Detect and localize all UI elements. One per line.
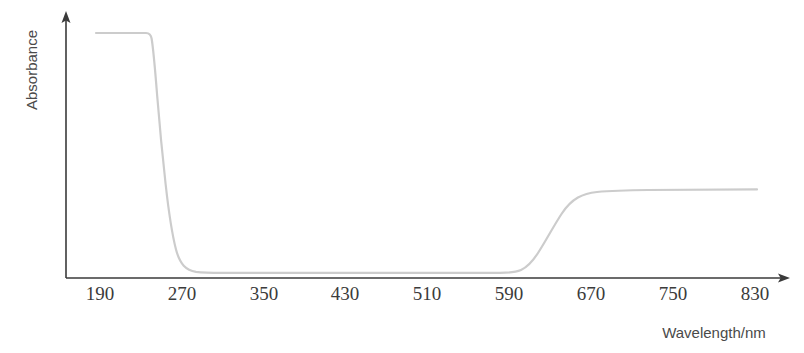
x-axis-title: Wavelength/nm	[662, 324, 766, 341]
absorbance-spectrum-chart: 190 270 350 430 510 590 670 750 830 Wave…	[0, 0, 804, 353]
x-tick-label: 430	[331, 283, 360, 304]
y-axis-title: Absorbance	[23, 30, 40, 110]
absorbance-curve	[96, 33, 757, 273]
x-tick-label: 190	[86, 283, 115, 304]
x-tick-label: 830	[741, 283, 770, 304]
x-tick-label: 670	[577, 283, 606, 304]
x-tick-label: 350	[250, 283, 279, 304]
x-tick-label: 750	[659, 283, 688, 304]
x-tick-label: 270	[168, 283, 197, 304]
chart-svg: 190 270 350 430 510 590 670 750 830 Wave…	[0, 0, 804, 353]
x-tick-label: 510	[413, 283, 442, 304]
x-tick-label: 590	[495, 283, 524, 304]
